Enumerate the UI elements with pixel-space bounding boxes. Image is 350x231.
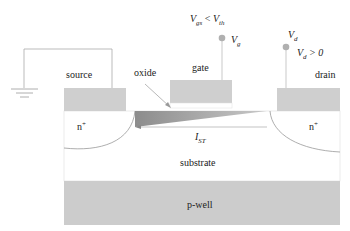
ground-icon [11, 89, 38, 97]
vg-sub: g [237, 40, 241, 48]
gate-condition: Vgs < Vth [190, 14, 225, 24]
oxide-label: oxide [134, 68, 156, 78]
n-plus-left-label: n+ [77, 122, 86, 132]
source-label: source [66, 70, 92, 80]
current-sub: ST [198, 137, 205, 145]
gate-oxide [170, 103, 232, 108]
gate-terminal-dot [219, 35, 226, 42]
gate-label: gate [192, 63, 209, 73]
drain-condition: Vd > 0 [297, 48, 323, 58]
p-well-label: p-well [187, 200, 213, 210]
drain-electrode [277, 88, 340, 111]
cond-drain-rest: > 0 [307, 47, 324, 58]
source-electrode [64, 88, 126, 111]
substrate-region [64, 111, 340, 181]
gate-electrode [170, 80, 232, 103]
vd-label: Vd [288, 30, 298, 40]
n-right-sup: + [314, 120, 318, 128]
drain-terminal-dot [283, 44, 290, 51]
cond-gate-op: < [202, 13, 213, 24]
current-label: IST [195, 132, 206, 142]
cond-gate-s2: th [219, 19, 224, 27]
vd-sub: d [294, 35, 298, 43]
drain-label: drain [315, 70, 336, 80]
vg-label: Vg [231, 35, 241, 45]
n-plus-right-label: n+ [309, 122, 318, 132]
n-left-sup: + [82, 120, 86, 128]
oxide-pointer [145, 84, 170, 107]
substrate-label: substrate [180, 158, 216, 168]
